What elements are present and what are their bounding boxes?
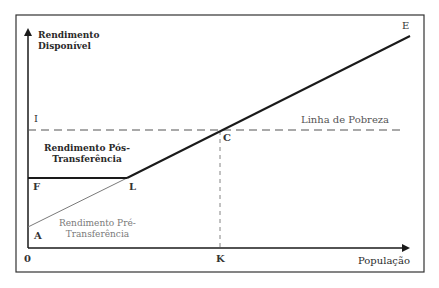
point-label-e: E xyxy=(402,20,409,33)
point-label-c: C xyxy=(223,132,231,145)
point-label-l: L xyxy=(129,181,136,194)
income-line-l-to-e xyxy=(127,36,410,178)
point-label-f: F xyxy=(33,181,40,194)
poverty-line-label: Linha de Pobreza xyxy=(301,114,389,127)
post-transfer-label: Rendimento Pós- Transferência xyxy=(44,143,130,166)
origin-label: 0 xyxy=(24,253,31,266)
y-axis-label: Rendimento Disponível xyxy=(38,30,99,53)
point-label-i: I xyxy=(34,113,38,126)
x-axis-label: População xyxy=(358,255,410,268)
point-label-k: K xyxy=(216,253,225,266)
pre-transfer-label: Rendimento Pré- Transferência xyxy=(59,218,136,241)
point-label-a: A xyxy=(34,230,42,243)
